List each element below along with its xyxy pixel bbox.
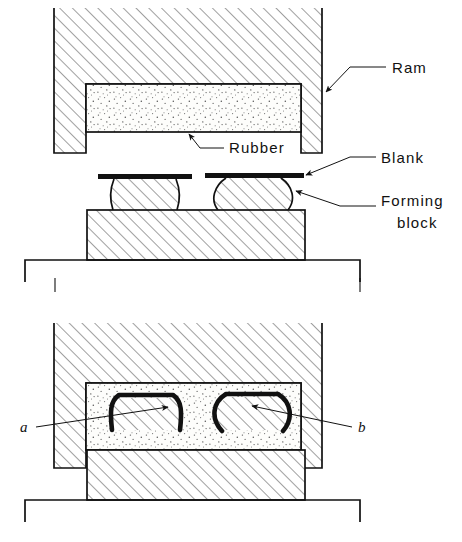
formed-part-b [214,394,289,431]
die-block-upper-fill [87,210,305,260]
label-forming-block-line1: Forming [381,192,444,209]
blank-right [205,173,304,178]
label-part-a: a [20,419,28,435]
die-block-lower-fill [87,450,305,500]
formed-part-a [111,395,181,430]
die-block-lower [87,450,305,500]
label-blank: Blank [381,149,424,166]
formed-part-b-core [216,397,288,430]
forming-block-left-fill [111,179,179,210]
forming-block-right [214,178,293,210]
label-forming-block-line2: block [397,214,438,231]
rubber-pad [86,84,301,132]
forming-block-right-fill [214,178,293,210]
blank-left [98,174,192,179]
label-rubber: Rubber [229,139,285,156]
forming-block-left [111,179,179,210]
label-part-b: b [358,419,366,435]
label-ram: Ram [392,59,427,76]
rubber-pad-fill [86,84,301,132]
die-block-upper [87,210,305,260]
rubber-pad-forming-diagram: Ram Rubber Blank Forming block [0,0,462,542]
figure-root: Ram Rubber Blank Forming block [0,0,462,542]
